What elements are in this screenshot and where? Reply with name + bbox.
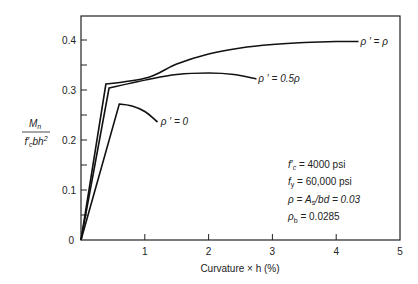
y-tick-label: 0.4 — [62, 35, 76, 46]
x-axis-label: Curvature × h (%) — [200, 263, 279, 274]
fc-annotation: f′c = 4000 psi — [288, 159, 345, 171]
origin-label: 0 — [68, 235, 74, 246]
y-tick-label: 0.2 — [62, 135, 76, 146]
material-properties: f′c = 4000 psi fy = 60,000 psi ρ = As/bd… — [287, 159, 360, 224]
rhob-annotation: ρb = 0.0285 — [287, 211, 340, 224]
rho-annotation: ρ = As/bd = 0.03 — [287, 194, 360, 206]
x-tick-label: 2 — [206, 246, 212, 257]
x-tick-label: 3 — [270, 246, 276, 257]
plot-frame — [81, 16, 400, 240]
moment-curvature-chart: 0.10.20.30.40 12345 ρ ′ = ρρ ′ = 0.5ρρ ′… — [0, 0, 418, 284]
label-rho-prime-zero: ρ ′ = 0 — [160, 116, 189, 127]
x-tick-label: 1 — [142, 246, 148, 257]
x-tick-label: 5 — [397, 246, 403, 257]
series-rho-prime-half-rho — [81, 73, 256, 240]
fy-annotation: fy = 60,000 psi — [288, 176, 352, 189]
y-label-numerator: Mn — [29, 118, 41, 130]
label-rho-prime-equals-rho: ρ ′ = ρ — [359, 36, 388, 47]
label-rho-prime-half-rho: ρ ′ = 0.5ρ — [257, 73, 300, 84]
y-tick-label: 0.1 — [62, 185, 76, 196]
y-axis-label: Mn f′cbh2 — [22, 118, 50, 148]
y-tick-label: 0.3 — [62, 85, 76, 96]
x-tick-label: 4 — [333, 246, 339, 257]
y-label-denominator: f′cbh2 — [24, 135, 47, 148]
